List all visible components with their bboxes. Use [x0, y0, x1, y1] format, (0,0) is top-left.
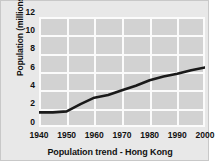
- y-tick-label: 2: [15, 99, 35, 108]
- y-tick-label: 6: [15, 63, 35, 72]
- y-tick-label: 10: [15, 26, 35, 35]
- y-tick-label: 0: [15, 118, 35, 127]
- y-tick-label: 8: [15, 44, 35, 53]
- chart-figure: Population (millions) 0 2 4 6 8 10 12 19…: [0, 0, 209, 161]
- y-tick-label: 12: [15, 8, 35, 17]
- x-tick-label: 2000: [188, 130, 216, 140]
- y-axis-tick-labels: 0 2 4 6 8 10 12: [15, 12, 35, 132]
- plot-area: [39, 17, 205, 127]
- population-line-series: [39, 17, 205, 127]
- x-axis-tick-labels: 1940 1950 1960 1970 1980 1990 2000: [39, 130, 205, 142]
- chart-title: Population trend - Hong Kong: [15, 147, 205, 158]
- y-tick-label: 4: [15, 81, 35, 90]
